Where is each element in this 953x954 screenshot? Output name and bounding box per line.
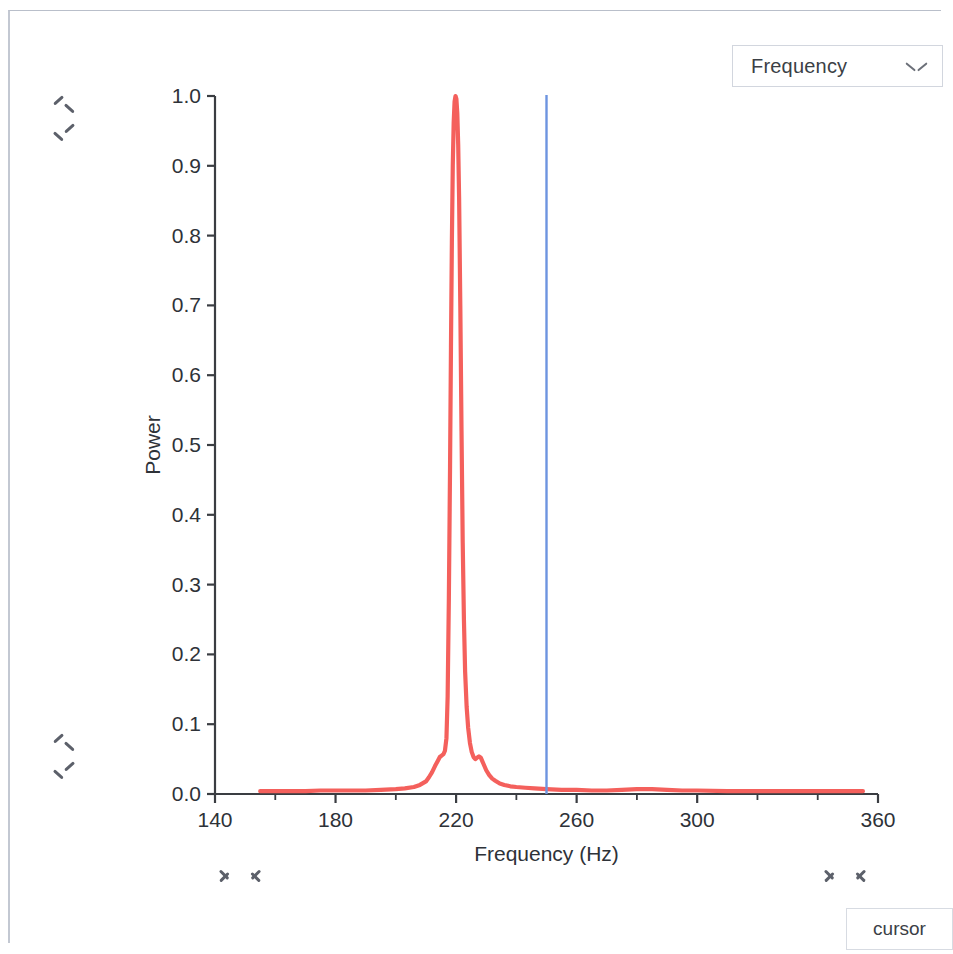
x-axis-title: Frequency (Hz) [474,842,619,865]
spectrum-plot: 0.00.10.20.30.40.50.60.70.80.91.01401802… [10,11,953,954]
application-window-frame: 0.00.10.20.30.40.50.60.70.80.91.01401802… [8,10,941,943]
y-tick-label: 0.8 [172,224,201,247]
cursor-button[interactable]: cursor [846,908,953,950]
x-tick-label: 360 [860,808,895,831]
chevron-right-icon[interactable] [846,858,868,892]
x-tick-label: 140 [197,808,232,831]
horizontal-nav-right[interactable] [818,858,874,892]
chevron-up-icon[interactable] [51,95,85,115]
chevron-right-icon[interactable] [241,858,263,892]
plot-svg: 0.00.10.20.30.40.50.60.70.80.91.01401802… [10,11,953,954]
y-tick-label: 0.5 [172,433,201,456]
x-tick-label: 220 [439,808,474,831]
x-tick-label: 180 [318,808,353,831]
y-tick-label: 0.3 [172,573,201,596]
y-tick-label: 1.0 [172,84,201,107]
chevron-down-icon[interactable] [51,123,85,143]
y-tick-label: 0.1 [172,712,201,735]
chevron-left-icon[interactable] [818,858,840,892]
horizontal-nav-left[interactable] [213,858,269,892]
vertical-nav-bottom[interactable] [51,733,85,789]
chevron-up-icon[interactable] [51,733,85,753]
y-tick-label: 0.2 [172,642,201,665]
chevron-left-icon[interactable] [213,858,235,892]
y-tick-label: 0.9 [172,154,201,177]
x-tick-label: 300 [680,808,715,831]
y-tick-label: 0.6 [172,363,201,386]
frequency-mode-select[interactable]: Frequency [732,45,943,87]
spectrum-trace [260,96,863,791]
frequency-mode-select-value: Frequency [751,55,847,78]
y-axis-title: Power [141,415,164,475]
plot-axes [207,96,878,803]
vertical-nav-top[interactable] [51,95,85,151]
x-tick-label: 260 [559,808,594,831]
axis-labels-group: 0.00.10.20.30.40.50.60.70.80.91.01401802… [141,84,896,865]
cursor-button-label: cursor [873,918,926,940]
y-tick-label: 0.0 [172,782,201,805]
trace-group [260,96,863,791]
y-tick-label: 0.7 [172,293,201,316]
y-tick-label: 0.4 [172,503,202,526]
chevron-down-icon[interactable] [51,761,85,781]
chevron-down-icon [907,61,926,72]
